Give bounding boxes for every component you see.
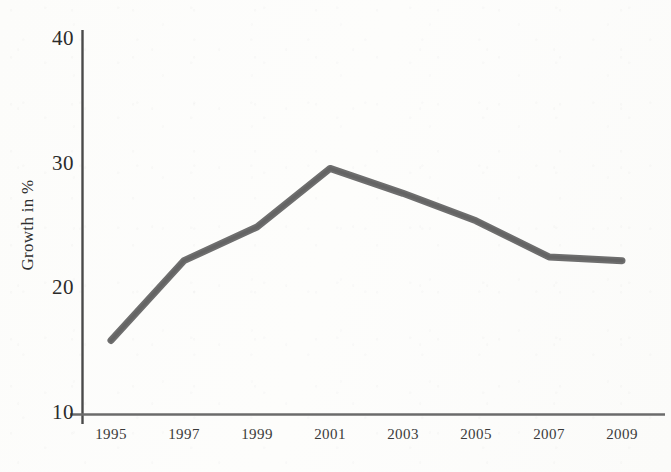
y-axis-tick-label: 20: [14, 275, 74, 300]
chart-page: Growth in % 40 30 20 10 1995 1997 1999 2…: [0, 0, 671, 472]
x-axis-tick-label: 1997: [144, 426, 224, 443]
x-axis-tick-label: 1995: [71, 426, 151, 443]
y-axis-tick-label: 40: [14, 26, 74, 51]
data-series-line-core: [111, 168, 622, 340]
x-axis-tick-label: 2005: [436, 426, 516, 443]
line-chart-plot: [0, 0, 671, 472]
x-axis-tick-label: 2001: [290, 426, 370, 443]
y-axis-tick-label: 30: [14, 151, 74, 176]
x-axis-tick-label: 2007: [509, 426, 589, 443]
x-axis-tick-label: 2003: [363, 426, 443, 443]
y-axis-tick-label: 10: [14, 400, 74, 425]
x-axis-tick-label: 1999: [217, 426, 297, 443]
x-axis-tick-label: 2009: [582, 426, 662, 443]
y-axis-title: Growth in %: [18, 155, 38, 295]
